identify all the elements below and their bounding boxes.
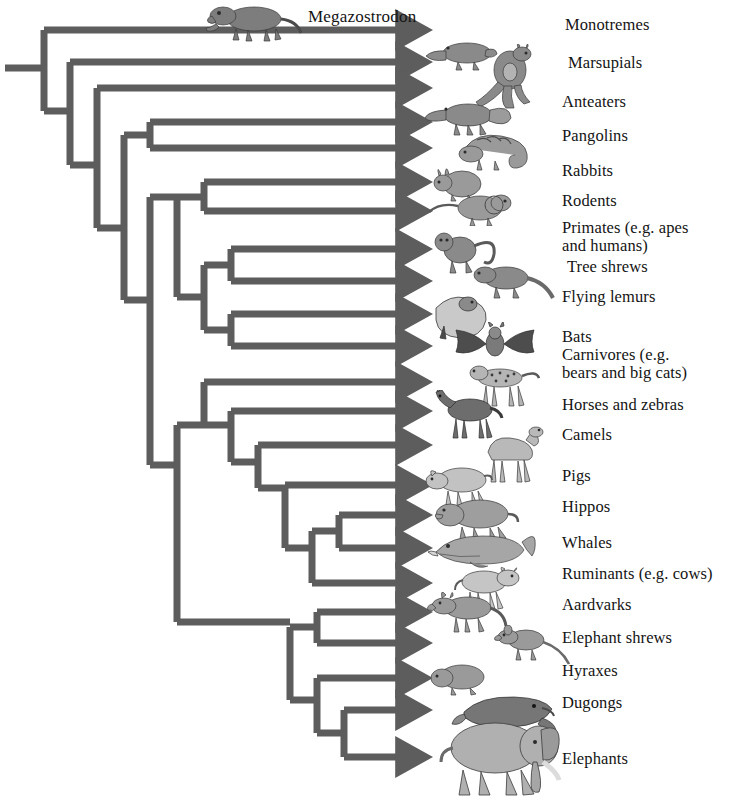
taxon-label-elephants: Elephants [562,750,628,768]
taxon-label-anteaters: Anteaters [562,93,626,111]
taxon-label-pangolins: Pangolins [562,127,628,145]
taxon-label-flying-lemurs: Flying lemurs [562,288,655,306]
taxon-label-whales: Whales [562,534,612,552]
taxon-label-aardvarks: Aardvarks [562,596,632,614]
taxon-label-dugongs: Dugongs [562,694,622,712]
taxon-label-rodents: Rodents [562,192,617,210]
taxon-label-hyraxes: Hyraxes [562,662,618,680]
taxon-label-horses: Horses and zebras [562,396,684,414]
taxon-label-camels: Camels [562,426,612,444]
taxon-label-carnivores: Carnivores (e.g. bears and big cats) [562,346,687,382]
taxon-label-hippos: Hippos [562,498,610,516]
taxon-label-elephant-shrews: Elephant shrews [562,629,672,647]
cladogram-figure: Megazostrodon Monotremes Marsupials Ante… [0,0,739,797]
taxon-label-bats: Bats [562,328,592,346]
taxon-label-pigs: Pigs [562,467,591,485]
taxon-label-tree-shrews: Tree shrews [567,258,648,276]
taxon-label-marsupials: Marsupials [568,54,642,72]
taxon-label-ruminants: Ruminants (e.g. cows) [562,565,713,583]
taxon-label-monotremes: Monotremes [565,16,649,34]
fossil-taxon-label: Megazostrodon [308,7,416,27]
taxon-label-rabbits: Rabbits [562,162,613,180]
taxon-label-primates: Primates (e.g. apes and humans) [562,219,689,255]
